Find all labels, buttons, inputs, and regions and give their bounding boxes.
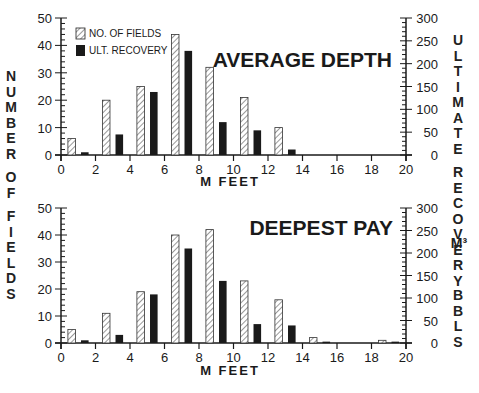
x-tick-label: 2	[92, 350, 99, 365]
left-tick-label: 30	[38, 255, 52, 270]
legend-swatch-fields	[76, 28, 85, 39]
unit-m3: M³	[446, 236, 472, 250]
bar-recovery	[150, 92, 158, 155]
bar-fields	[309, 338, 317, 343]
bar-fields	[275, 128, 283, 155]
chart-title-deepest-pay: DEEPEST PAY	[249, 216, 393, 239]
legend-label-recovery: ULT. RECOVERY	[89, 45, 168, 56]
bar-fields	[206, 230, 214, 343]
bar-recovery	[219, 122, 227, 155]
bar-fields	[240, 281, 248, 343]
bar-recovery	[116, 335, 124, 343]
bar-fields	[137, 87, 145, 156]
bar-recovery	[392, 342, 400, 344]
bar-fields	[275, 300, 283, 343]
bar-recovery	[116, 134, 124, 155]
left-tick-label: 40	[38, 38, 52, 53]
x-tick-label: 2	[92, 162, 99, 177]
x-tick-label: 12	[261, 162, 275, 177]
x-tick-label: 12	[261, 350, 275, 365]
left-tick-label: 50	[38, 201, 52, 216]
right-tick-label: 100	[416, 291, 438, 306]
x-tick-label: 20	[399, 350, 413, 365]
left-tick-label: 30	[38, 66, 52, 81]
x-axis-label-bottom: M FEET	[200, 363, 260, 378]
right-tick-label: 200	[416, 246, 438, 261]
bar-fields	[68, 139, 76, 155]
bar-fields	[240, 97, 248, 155]
x-tick-label: 4	[126, 350, 133, 365]
bar-recovery	[81, 152, 89, 155]
left-tick-label: 10	[38, 309, 52, 324]
right-tick-label: 50	[424, 125, 438, 140]
x-tick-label: 0	[57, 162, 64, 177]
depth-histogram-figure: 0102030405005010015020025030002468101214…	[0, 0, 479, 393]
x-tick-label: 4	[126, 162, 133, 177]
right-axis-unit-imperial: BBLS	[450, 288, 466, 350]
left-tick-label: 20	[38, 282, 52, 297]
x-tick-label: 14	[295, 162, 309, 177]
legend-swatch-recovery	[76, 45, 85, 56]
bar-recovery	[254, 130, 262, 155]
left-tick-label: 50	[38, 11, 52, 26]
bar-fields	[102, 313, 110, 343]
x-tick-label: 16	[330, 162, 344, 177]
x-tick-label: 0	[57, 350, 64, 365]
bar-fields	[206, 67, 214, 155]
bar-recovery	[288, 150, 296, 155]
right-tick-label: 300	[416, 11, 438, 26]
x-tick-label: 18	[364, 162, 378, 177]
x-tick-label: 14	[295, 350, 309, 365]
left-axis-label: NUMBER OF FIELDS	[3, 69, 19, 302]
bar-fields	[102, 100, 110, 155]
right-tick-label: 200	[416, 57, 438, 72]
right-tick-label: 150	[416, 269, 438, 284]
right-tick-label: 300	[416, 201, 438, 216]
chart-title-average-depth: AVERAGE DEPTH	[213, 48, 392, 71]
bar-fields	[171, 34, 179, 155]
left-tick-label: 0	[45, 148, 52, 163]
x-tick-label: 20	[399, 162, 413, 177]
bar-fields	[68, 330, 76, 344]
right-tick-label: 150	[416, 80, 438, 95]
bar-recovery	[150, 294, 158, 343]
x-tick-label: 6	[161, 162, 168, 177]
x-tick-label: 18	[364, 350, 378, 365]
x-tick-label: 16	[330, 350, 344, 365]
bar-recovery	[323, 342, 331, 344]
right-tick-label: 0	[431, 148, 438, 163]
right-tick-label: 50	[424, 314, 438, 329]
left-tick-label: 40	[38, 228, 52, 243]
legend-label-fields: NO. OF FIELDS	[89, 28, 162, 39]
bar-fields	[378, 340, 386, 343]
x-tick-label: 6	[161, 350, 168, 365]
bar-recovery	[81, 340, 89, 343]
right-tick-label: 250	[416, 34, 438, 49]
left-tick-label: 10	[38, 121, 52, 136]
left-tick-label: 20	[38, 93, 52, 108]
bar-recovery	[288, 325, 296, 343]
x-axis-label-top: M FEET	[200, 174, 260, 189]
left-tick-label: 0	[45, 336, 52, 351]
legend: NO. OF FIELDS ULT. RECOVERY	[76, 28, 168, 56]
right-axis-unit-metric: M³	[446, 236, 472, 250]
right-tick-label: 0	[431, 336, 438, 351]
bar-fields	[171, 235, 179, 343]
bar-recovery	[185, 51, 193, 155]
right-tick-label: 250	[416, 224, 438, 239]
right-tick-label: 100	[416, 102, 438, 117]
bar-recovery	[185, 249, 193, 344]
bar-recovery	[254, 324, 262, 343]
bar-recovery	[219, 281, 227, 343]
bar-fields	[137, 292, 145, 343]
